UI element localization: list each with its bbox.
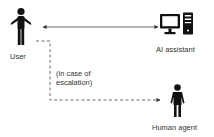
escalation-note: (in case of escalation) <box>56 69 92 87</box>
ai-assistant-computer-icon <box>160 13 193 35</box>
human-agent-person-icon <box>171 84 185 117</box>
user-label: User <box>10 53 26 61</box>
escalation-note-line1: (in case of <box>56 69 92 78</box>
escalation-dashed-arrow <box>36 41 160 100</box>
human-agent-label: Human agent <box>152 124 197 132</box>
ai-assistant-label: AI assistant <box>156 46 195 54</box>
user-person-icon <box>11 8 32 45</box>
escalation-note-line2: escalation) <box>56 78 92 87</box>
diagram-canvas <box>0 0 214 137</box>
